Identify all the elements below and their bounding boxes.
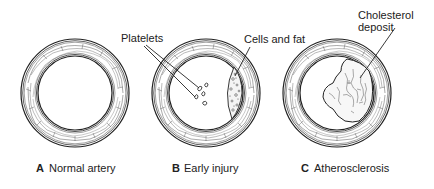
panel-early-injury: Platelets Cells and fat B Early injury	[121, 32, 305, 174]
artery-diagram: A Normal artery	[0, 0, 434, 189]
caption-atherosclerosis: Atherosclerosis	[314, 162, 390, 174]
caption-normal-artery: Normal artery	[49, 162, 116, 174]
callout-cholesterol-line2: deposit	[358, 21, 393, 33]
cholesterol-deposit-plaque	[323, 59, 373, 122]
callout-platelets: Platelets	[121, 32, 164, 44]
callout-cholesterol-line1: Cholesterol	[358, 9, 414, 21]
caption-early-injury: Early injury	[184, 162, 239, 174]
artery-cross-section-c	[283, 39, 391, 147]
artery-cross-section-b	[152, 39, 260, 147]
panel-normal-artery: A Normal artery	[21, 39, 129, 174]
caption-letter-a: A	[36, 162, 44, 174]
callout-cells-and-fat: Cells and fat	[244, 33, 305, 45]
artery-cross-section-a	[21, 39, 129, 147]
caption-letter-c: C	[301, 162, 309, 174]
platelets-leader-line-1	[146, 45, 199, 88]
caption-letter-b: B	[172, 162, 180, 174]
